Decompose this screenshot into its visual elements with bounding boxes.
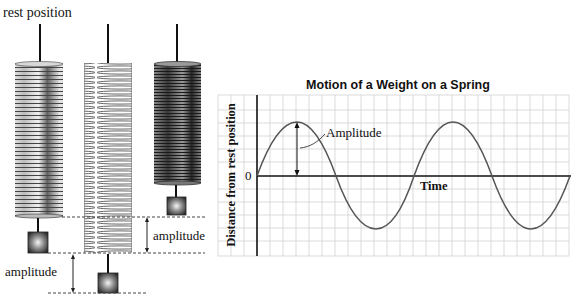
spring-coil	[15, 63, 63, 217]
amplitude-label-lower: amplitude	[5, 264, 57, 279]
amplitude-annotation: Amplitude	[326, 125, 382, 140]
rest-position-label: rest position	[3, 5, 72, 20]
amplitude-label-upper: amplitude	[153, 228, 205, 243]
y-zero-label: 0	[245, 168, 252, 183]
motion-chart: Motion of a Weight on a Spring	[218, 78, 571, 256]
spring-coil	[154, 64, 201, 183]
spring-rest	[15, 24, 63, 253]
spring-coil	[84, 63, 132, 253]
spring-compressed	[154, 24, 201, 215]
weight-icon	[167, 197, 186, 215]
x-axis-label: Time	[420, 179, 448, 193]
amplitude-arrow-upper	[145, 217, 149, 253]
chart-title: Motion of a Weight on a Spring	[306, 78, 490, 92]
amplitude-arrow-lower	[71, 254, 75, 293]
weight-icon	[28, 232, 48, 253]
figure-canvas: rest position	[0, 0, 581, 307]
springs-illustration: rest position	[3, 5, 205, 293]
y-axis-label: Distance from rest position	[224, 103, 238, 247]
weight-icon	[98, 273, 118, 293]
